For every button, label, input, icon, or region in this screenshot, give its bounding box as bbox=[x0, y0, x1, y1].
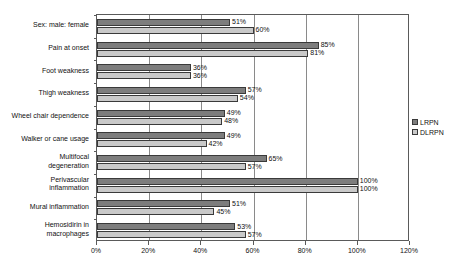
bar-value-label: 49% bbox=[225, 132, 241, 140]
bar-value-label: 36% bbox=[191, 72, 207, 80]
x-axis-tick bbox=[200, 241, 201, 245]
bar-value-label: 51% bbox=[230, 18, 246, 26]
y-axis-tick bbox=[94, 197, 97, 198]
x-axis-tick-label: 100% bbox=[348, 247, 366, 255]
legend-label: LRPN bbox=[420, 118, 439, 127]
bar-dlrpn bbox=[97, 95, 238, 102]
legend-item-lrpn: LRPN bbox=[412, 117, 457, 127]
legend-swatch-icon bbox=[412, 129, 418, 135]
bar-lrpn bbox=[97, 223, 235, 230]
bar-dlrpn bbox=[97, 27, 254, 34]
bar-dlrpn bbox=[97, 140, 207, 147]
bar-dlrpn bbox=[97, 50, 308, 57]
bar-dlrpn bbox=[97, 208, 214, 215]
legend-item-dlrpn: DLRPN bbox=[412, 127, 457, 137]
bar-dlrpn bbox=[97, 118, 222, 125]
legend-swatch-icon bbox=[412, 119, 418, 125]
category-label: Multifocal degeneration bbox=[0, 153, 89, 170]
bar-dlrpn bbox=[97, 186, 358, 193]
bar-lrpn bbox=[97, 19, 230, 26]
y-axis-tick bbox=[94, 83, 97, 84]
bar-value-label: 57% bbox=[246, 163, 262, 171]
x-axis-tick-label: 80% bbox=[298, 247, 312, 255]
y-axis-tick bbox=[94, 129, 97, 130]
bar-value-label: 51% bbox=[230, 200, 246, 208]
y-axis-tick bbox=[94, 106, 97, 107]
x-axis-tick-label: 120% bbox=[400, 247, 418, 255]
bar-lrpn bbox=[97, 155, 267, 162]
bar-lrpn bbox=[97, 200, 230, 207]
gridline bbox=[358, 15, 359, 240]
bar-value-label: 54% bbox=[238, 94, 254, 102]
bar-lrpn bbox=[97, 132, 225, 139]
category-label: Hemosidirin in macrophages bbox=[0, 221, 89, 238]
x-axis-tick-label: 40% bbox=[193, 247, 207, 255]
bar-value-label: 85% bbox=[319, 41, 335, 49]
category-label: Sex: male: female bbox=[0, 21, 89, 30]
x-axis-tick-label: 0% bbox=[91, 247, 101, 255]
bar-chart: Sex: male: femalePain at onsetFoot weakn… bbox=[0, 0, 459, 269]
category-label: Perivascular inflammation bbox=[0, 176, 89, 193]
chart-legend: LRPNDLRPN bbox=[412, 117, 457, 137]
bar-value-label: 60% bbox=[254, 26, 270, 34]
bar-value-label: 100% bbox=[358, 177, 378, 185]
x-axis-tick bbox=[305, 241, 306, 245]
bar-dlrpn bbox=[97, 163, 246, 170]
bar-lrpn bbox=[97, 42, 319, 49]
plot-area: 51%60%85%81%36%36%57%54%49%48%49%42%65%5… bbox=[96, 14, 409, 241]
legend-label: DLRPN bbox=[420, 128, 444, 137]
bar-dlrpn bbox=[97, 72, 191, 79]
category-label: Foot weakness bbox=[0, 67, 89, 76]
category-label: Wheel chair dependence bbox=[0, 112, 89, 121]
y-axis-tick bbox=[94, 15, 97, 16]
x-axis: 0%20%40%60%80%100%120% bbox=[96, 241, 409, 265]
bar-lrpn bbox=[97, 110, 225, 117]
x-axis-tick bbox=[253, 241, 254, 245]
y-axis-tick bbox=[94, 60, 97, 61]
bar-value-label: 36% bbox=[191, 64, 207, 72]
bar-value-label: 81% bbox=[308, 49, 324, 57]
bar-lrpn bbox=[97, 178, 358, 185]
category-label: Pain at onset bbox=[0, 44, 89, 53]
bar-value-label: 42% bbox=[207, 140, 223, 148]
bar-value-label: 57% bbox=[246, 86, 262, 94]
bar-value-label: 49% bbox=[225, 109, 241, 117]
bar-value-label: 48% bbox=[222, 117, 238, 125]
bar-lrpn bbox=[97, 64, 191, 71]
category-label: Mural inflammation bbox=[0, 203, 89, 212]
x-axis-tick bbox=[148, 241, 149, 245]
x-axis-tick-label: 60% bbox=[245, 247, 259, 255]
category-label: Thigh weakness bbox=[0, 89, 89, 98]
y-axis-tick bbox=[94, 151, 97, 152]
y-axis-tick bbox=[94, 219, 97, 220]
bar-value-label: 100% bbox=[358, 185, 378, 193]
bar-dlrpn bbox=[97, 231, 246, 238]
x-axis-tick bbox=[357, 241, 358, 245]
category-label: Walker or cane usage bbox=[0, 135, 89, 144]
bar-value-label: 45% bbox=[214, 208, 230, 216]
bar-value-label: 57% bbox=[246, 231, 262, 239]
bar-value-label: 65% bbox=[267, 155, 283, 163]
bar-value-label: 53% bbox=[235, 223, 251, 231]
x-axis-tick bbox=[409, 241, 410, 245]
x-axis-tick bbox=[96, 241, 97, 245]
y-axis-category-labels: Sex: male: femalePain at onsetFoot weakn… bbox=[0, 14, 93, 241]
bar-lrpn bbox=[97, 87, 246, 94]
y-axis-tick bbox=[94, 38, 97, 39]
x-axis-tick-label: 20% bbox=[141, 247, 155, 255]
y-axis-tick bbox=[94, 174, 97, 175]
